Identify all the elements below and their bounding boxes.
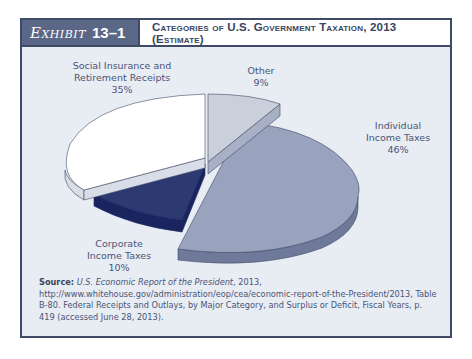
source-note: Source: U.S. Economic Report of the Pres… <box>39 277 439 323</box>
label-corporate: Corporate Income Taxes 10% <box>74 238 164 274</box>
exhibit-frame: Exhibit 13–1 Categories of U.S. Governme… <box>20 18 452 338</box>
label-other: Other 9% <box>236 65 286 89</box>
label-individual: Individual Income Taxes 46% <box>358 120 438 156</box>
source-title: U.S. Economic Report of the President <box>77 277 233 287</box>
source-label: Source: <box>39 277 74 287</box>
label-social: Social Insurance and Retirement Receipts… <box>52 60 192 96</box>
